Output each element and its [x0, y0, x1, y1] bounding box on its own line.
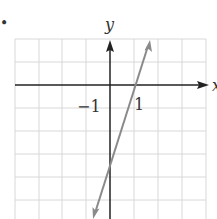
tick-label-pos1: 1 — [134, 95, 144, 114]
bullet: • — [0, 15, 8, 31]
y-axis — [106, 40, 114, 219]
x-axis-label: x — [212, 76, 217, 95]
coordinate-plane: • y x −1 1 — [0, 0, 217, 219]
tick-label-neg1: −1 — [77, 97, 101, 116]
data-line — [93, 40, 153, 219]
x-axis — [15, 81, 209, 89]
y-axis-label: y — [104, 15, 115, 34]
